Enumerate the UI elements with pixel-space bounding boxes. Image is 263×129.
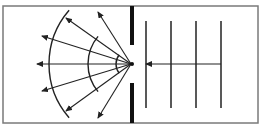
diffracted-ray-arrow	[42, 36, 131, 64]
diffracted-ray-arrow	[42, 64, 131, 91]
diffraction-diagram	[0, 0, 263, 129]
diffracted-ray-arrow	[66, 64, 131, 111]
diffracted-ray-arrow	[98, 12, 131, 64]
diffracted-ray-arrow	[66, 18, 131, 64]
barrier-upper	[130, 6, 134, 45]
barrier-lower	[130, 83, 134, 123]
diffracted-rays	[37, 12, 131, 118]
slit-point-source	[130, 62, 134, 66]
